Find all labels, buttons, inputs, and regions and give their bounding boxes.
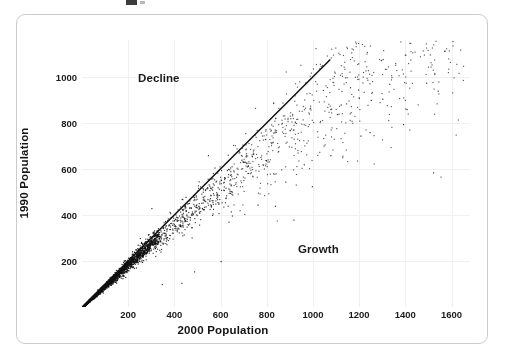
chart-screenshot: Decline Growth 2004006008001000120014001… (0, 0, 506, 359)
y-axis-tick-labels: 2004006008001000 (0, 0, 77, 359)
y-tick-label: 200 (61, 256, 77, 267)
annotation-growth: Growth (298, 243, 339, 255)
y-tick-label: 1000 (56, 71, 77, 82)
clipped-title-remnant-secondary (140, 1, 145, 4)
x-tick-label: 1600 (441, 309, 462, 320)
x-tick-label: 800 (259, 309, 275, 320)
y-tick-label: 800 (61, 117, 77, 128)
x-tick-label: 200 (120, 309, 136, 320)
y-axis-title: 1990 Population (18, 127, 30, 218)
scatter-plot-area: Decline Growth (82, 40, 470, 307)
x-axis-title-text: 2000 Population (177, 324, 268, 336)
annotation-decline: Decline (138, 72, 180, 84)
x-axis-title: 2000 Population (0, 324, 506, 336)
x-tick-label: 400 (166, 309, 182, 320)
y-tick-label: 400 (61, 209, 77, 220)
y-tick-label: 600 (61, 163, 77, 174)
x-tick-label: 1000 (302, 309, 323, 320)
x-tick-label: 1200 (349, 309, 370, 320)
x-tick-label: 1400 (395, 309, 416, 320)
clipped-title-remnant (126, 0, 137, 5)
x-tick-label: 600 (213, 309, 229, 320)
